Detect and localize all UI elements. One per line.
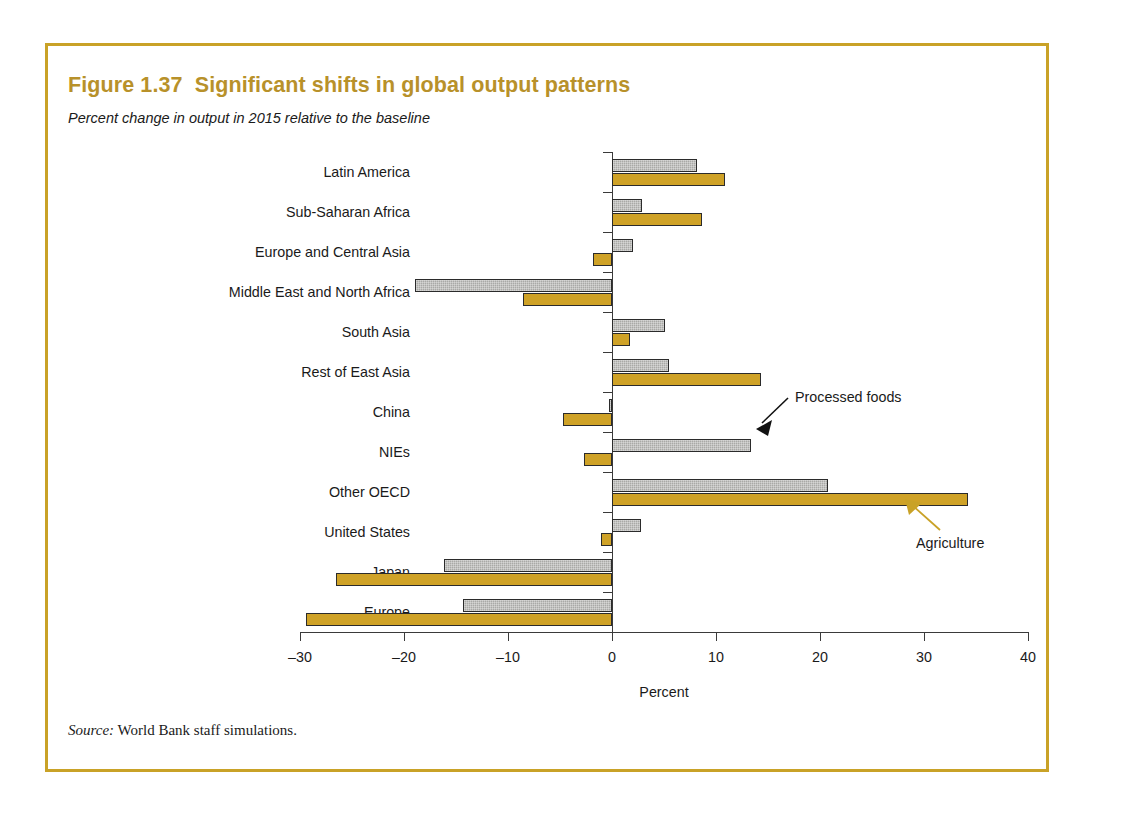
- figure-subtitle: Percent change in output in 2015 relativ…: [68, 110, 430, 126]
- figure-title: Figure 1.37 Significant shifts in global…: [68, 73, 630, 98]
- source-note: Source: World Bank staff simulations.: [68, 722, 297, 739]
- figure-border: [45, 43, 1049, 772]
- source-label: Source:: [68, 722, 114, 738]
- source-text: World Bank staff simulations.: [114, 722, 297, 738]
